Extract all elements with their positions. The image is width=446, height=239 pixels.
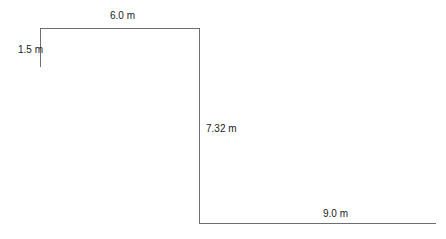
top-run-label: 6.0 m <box>110 10 135 22</box>
drop-line <box>199 28 200 224</box>
drop-label: 7.32 m <box>206 123 237 135</box>
left-rise-label: 1.5 m <box>18 44 43 56</box>
bottom-run-label: 9.0 m <box>323 208 348 220</box>
top-run-line <box>40 28 200 29</box>
bottom-run-line <box>199 223 436 224</box>
